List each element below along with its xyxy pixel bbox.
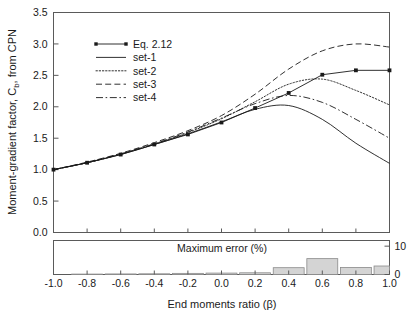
series-marker-eq-2-12 xyxy=(388,68,392,72)
y-tick-label: 2.0 xyxy=(33,100,48,112)
series-marker-eq-2-12 xyxy=(354,68,358,72)
legend-label-set-3[interactable]: set-3 xyxy=(133,78,157,90)
legend-label-set-2[interactable]: set-2 xyxy=(133,65,157,77)
y-tick-label: 3.0 xyxy=(33,38,48,50)
bottom-panel-label: Maximum error (%) xyxy=(177,242,267,254)
x-tick-label: 0.2 xyxy=(248,277,263,289)
y-axis-title-tail: , from CPN xyxy=(6,29,18,83)
error-bar xyxy=(374,266,389,275)
x-tick-label: -0.8 xyxy=(78,277,96,289)
legend-label-eq-2-12[interactable]: Eq. 2.12 xyxy=(133,38,172,50)
y-tick-label: 3.5 xyxy=(33,6,48,18)
x-tick-label: -0.6 xyxy=(112,277,130,289)
y-tick-label: 1.0 xyxy=(33,163,48,175)
legend-label-set-4[interactable]: set-4 xyxy=(133,91,157,103)
right-axis-tick-label: 10 xyxy=(395,240,407,252)
series-marker-eq-2-12 xyxy=(320,73,324,77)
x-tick-label: 0.8 xyxy=(349,277,364,289)
x-axis-title: End moments ratio (β) xyxy=(167,298,276,310)
x-tick-label: -0.2 xyxy=(179,277,197,289)
y-tick-label: 0.5 xyxy=(33,195,48,207)
chart-canvas: 0.00.51.01.52.02.53.03.5 Moment-gradient… xyxy=(0,0,419,314)
figure-container: 0.00.51.01.52.02.53.03.5 Moment-gradient… xyxy=(0,0,419,314)
x-tick-label: 0.0 xyxy=(214,277,229,289)
x-tick-label: -1.0 xyxy=(44,277,62,289)
figure-background xyxy=(0,0,419,314)
y-tick-label: 1.5 xyxy=(33,132,48,144)
series-marker-eq-2-12 xyxy=(287,91,291,95)
legend-label-set-1[interactable]: set-1 xyxy=(133,51,157,63)
x-tick-label: 1.0 xyxy=(382,277,397,289)
x-tick-label: 0.6 xyxy=(315,277,330,289)
y-axis-title-main: Moment-gradient factor, C xyxy=(6,88,18,215)
legend-marker-1 xyxy=(124,42,127,45)
x-tick-label: 0.4 xyxy=(281,277,296,289)
legend-marker-1 xyxy=(94,42,97,45)
y-tick-label: 2.5 xyxy=(33,69,48,81)
x-tick-label: -0.4 xyxy=(145,277,163,289)
y-tick-label: 0.0 xyxy=(33,226,48,238)
